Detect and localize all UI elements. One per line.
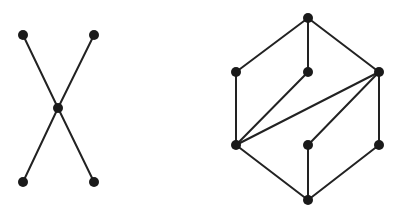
graph-node	[303, 195, 313, 205]
graph-edge	[236, 72, 308, 145]
graph-edge	[23, 108, 58, 182]
graph-edge	[23, 35, 58, 108]
graph-node	[18, 30, 28, 40]
graph-node	[18, 177, 28, 187]
graph-diagram	[0, 0, 400, 212]
graph-edge	[58, 108, 94, 182]
graph-node	[303, 13, 313, 23]
graph-node	[231, 140, 241, 150]
graph-edge	[308, 72, 379, 145]
graph-node	[374, 67, 384, 77]
x-shaped-graph	[18, 30, 99, 187]
graph-edge	[236, 18, 308, 72]
graph-node	[89, 30, 99, 40]
graph-node	[374, 140, 384, 150]
graph-edge	[58, 35, 94, 108]
graph-node	[303, 67, 313, 77]
hexagonal-graph	[231, 13, 384, 205]
graph-edge	[308, 18, 379, 72]
graph-node	[89, 177, 99, 187]
graph-edge	[308, 145, 379, 200]
graph-node	[303, 140, 313, 150]
graph-edge	[236, 145, 308, 200]
diagram-canvas	[0, 0, 400, 212]
graph-node	[53, 103, 63, 113]
graph-node	[231, 67, 241, 77]
graph-edge	[236, 72, 379, 145]
